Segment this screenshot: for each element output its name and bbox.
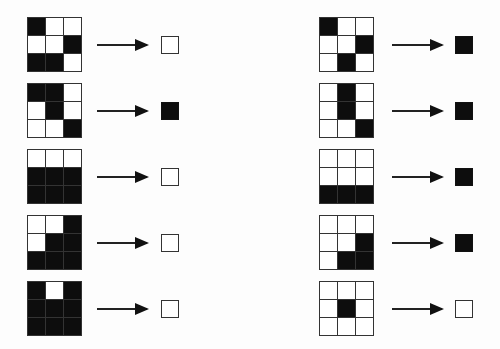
white-cell: [46, 216, 63, 233]
left-output-cell-4: [161, 234, 179, 252]
right-arrow-icon: [392, 110, 442, 112]
white-cell: [28, 216, 45, 233]
black-cell: [28, 300, 45, 317]
white-cell: [320, 54, 337, 71]
white-cell: [320, 84, 337, 101]
black-cell: [28, 168, 45, 185]
left-output-cell-3: [161, 168, 179, 186]
white-cell: [356, 168, 373, 185]
black-cell: [28, 318, 45, 335]
white-cell: [320, 300, 337, 317]
white-cell: [356, 84, 373, 101]
white-cell: [64, 54, 81, 71]
right-input-grid-2: [319, 83, 374, 138]
white-cell: [46, 18, 63, 35]
right-output-cell-5: [455, 300, 473, 318]
black-cell: [46, 186, 63, 203]
black-cell: [338, 54, 355, 71]
white-cell: [64, 84, 81, 101]
black-cell: [356, 36, 373, 53]
white-cell: [320, 120, 337, 137]
black-cell: [46, 300, 63, 317]
white-cell: [64, 102, 81, 119]
black-cell: [64, 252, 81, 269]
white-cell: [320, 168, 337, 185]
white-cell: [356, 18, 373, 35]
right-output-cell-1: [455, 36, 473, 54]
black-cell: [46, 54, 63, 71]
white-cell: [28, 234, 45, 251]
left-input-grid-1: [27, 17, 82, 72]
right-arrow-icon: [392, 308, 442, 310]
left-output-cell-5: [161, 300, 179, 318]
black-cell: [28, 84, 45, 101]
white-cell: [356, 150, 373, 167]
right-output-cell-4: [455, 234, 473, 252]
right-arrow-icon: [97, 308, 147, 310]
white-cell: [338, 36, 355, 53]
left-input-grid-5: [27, 281, 82, 336]
white-cell: [28, 36, 45, 53]
white-cell: [28, 150, 45, 167]
black-cell: [338, 252, 355, 269]
black-cell: [320, 186, 337, 203]
black-cell: [64, 168, 81, 185]
black-cell: [64, 300, 81, 317]
right-arrow-icon: [392, 44, 442, 46]
black-cell: [338, 84, 355, 101]
white-cell: [320, 282, 337, 299]
white-cell: [356, 216, 373, 233]
black-cell: [28, 186, 45, 203]
black-cell: [64, 216, 81, 233]
right-arrow-icon: [97, 176, 147, 178]
black-cell: [64, 186, 81, 203]
white-cell: [356, 102, 373, 119]
white-cell: [320, 102, 337, 119]
white-cell: [320, 150, 337, 167]
black-cell: [28, 252, 45, 269]
white-cell: [64, 150, 81, 167]
right-arrow-icon: [97, 44, 147, 46]
right-arrow-icon: [392, 242, 442, 244]
black-cell: [64, 36, 81, 53]
black-cell: [64, 318, 81, 335]
black-cell: [356, 120, 373, 137]
white-cell: [338, 318, 355, 335]
black-cell: [338, 186, 355, 203]
white-cell: [320, 252, 337, 269]
right-input-grid-3: [319, 149, 374, 204]
white-cell: [356, 54, 373, 71]
white-cell: [28, 102, 45, 119]
black-cell: [28, 54, 45, 71]
black-cell: [338, 300, 355, 317]
black-cell: [46, 168, 63, 185]
black-cell: [64, 120, 81, 137]
white-cell: [356, 318, 373, 335]
black-cell: [356, 186, 373, 203]
white-cell: [28, 120, 45, 137]
right-input-grid-5: [319, 281, 374, 336]
black-cell: [46, 252, 63, 269]
right-arrow-icon: [97, 110, 147, 112]
right-output-cell-2: [455, 102, 473, 120]
white-cell: [46, 150, 63, 167]
right-arrow-icon: [392, 176, 442, 178]
white-cell: [320, 234, 337, 251]
white-cell: [356, 282, 373, 299]
black-cell: [46, 102, 63, 119]
white-cell: [338, 120, 355, 137]
white-cell: [320, 216, 337, 233]
right-input-grid-4: [319, 215, 374, 270]
black-cell: [28, 18, 45, 35]
right-output-cell-3: [455, 168, 473, 186]
black-cell: [28, 282, 45, 299]
white-cell: [338, 216, 355, 233]
black-cell: [338, 102, 355, 119]
left-input-grid-3: [27, 149, 82, 204]
white-cell: [320, 318, 337, 335]
right-arrow-icon: [97, 242, 147, 244]
white-cell: [64, 18, 81, 35]
white-cell: [338, 18, 355, 35]
white-cell: [338, 168, 355, 185]
left-input-grid-2: [27, 83, 82, 138]
